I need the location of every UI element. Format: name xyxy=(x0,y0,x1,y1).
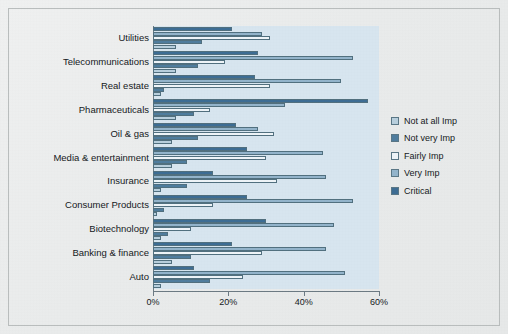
bar-pharmaceuticals-very-imp xyxy=(153,103,285,107)
category-label-auto: Auto xyxy=(9,271,149,282)
bar-auto-very-imp xyxy=(153,271,345,275)
legend-item-not-at-all-imp[interactable]: Not at all Imp xyxy=(391,112,497,130)
bar-oil-gas-fairly-imp xyxy=(153,132,274,136)
bar-banking-finance-fairly-imp xyxy=(153,251,262,255)
bar-media-entertainment-fairly-imp xyxy=(153,156,266,160)
bar-media-entertainment-not-at-all-imp xyxy=(153,164,172,168)
legend-label: Very Imp xyxy=(404,168,440,178)
bar-insurance-fairly-imp xyxy=(153,179,277,183)
legend-swatch-icon xyxy=(391,169,399,177)
bar-real-estate-fairly-imp xyxy=(153,84,270,88)
legend-swatch-icon xyxy=(391,187,399,195)
bar-auto-critical xyxy=(153,266,194,270)
bar-biotechnology-very-imp xyxy=(153,223,334,227)
bar-biotechnology-fairly-imp xyxy=(153,227,191,231)
bar-auto-not-very-imp xyxy=(153,279,210,283)
bar-auto-fairly-imp xyxy=(153,275,243,279)
x-tick-20 xyxy=(228,292,229,296)
x-tick-60 xyxy=(379,292,380,296)
bar-telecommunications-fairly-imp xyxy=(153,60,225,64)
bar-chart: 0%20%40%60% UtilitiesTelecommunicationsR… xyxy=(9,9,499,325)
bar-consumer-products-fairly-imp xyxy=(153,203,213,207)
bar-real-estate-very-imp xyxy=(153,79,341,83)
bar-real-estate-not-at-all-imp xyxy=(153,92,161,96)
bar-oil-gas-critical xyxy=(153,123,236,127)
bar-media-entertainment-not-very-imp xyxy=(153,160,187,164)
x-tick-label: 60% xyxy=(359,297,399,307)
bar-real-estate-critical xyxy=(153,75,255,79)
legend-swatch-icon xyxy=(391,152,399,160)
legend-item-very-imp[interactable]: Very Imp xyxy=(391,165,497,183)
legend-label: Critical xyxy=(404,186,432,196)
bar-banking-finance-not-very-imp xyxy=(153,255,191,259)
category-label-consumer-products: Consumer Products xyxy=(9,199,149,210)
legend-label: Not very Imp xyxy=(404,133,455,143)
legend-item-fairly-imp[interactable]: Fairly Imp xyxy=(391,147,497,165)
x-axis-line xyxy=(153,291,380,292)
bar-telecommunications-critical xyxy=(153,51,258,55)
bar-consumer-products-not-at-all-imp xyxy=(153,212,157,216)
category-label-biotechnology: Biotechnology xyxy=(9,223,149,234)
bar-insurance-not-at-all-imp xyxy=(153,188,161,192)
category-label-media-entertainment: Media & entertainment xyxy=(9,152,149,163)
bar-insurance-very-imp xyxy=(153,175,326,179)
bar-consumer-products-critical xyxy=(153,195,247,199)
category-label-oil-gas: Oil & gas xyxy=(9,128,149,139)
x-tick-label: 40% xyxy=(284,297,324,307)
bar-pharmaceuticals-not-very-imp xyxy=(153,112,194,116)
bar-real-estate-not-very-imp xyxy=(153,88,164,92)
bar-consumer-products-very-imp xyxy=(153,199,353,203)
bar-oil-gas-not-at-all-imp xyxy=(153,140,172,144)
bar-utilities-very-imp xyxy=(153,32,262,36)
category-label-real-estate: Real estate xyxy=(9,80,149,91)
bar-auto-not-at-all-imp xyxy=(153,284,161,288)
bar-banking-finance-very-imp xyxy=(153,247,326,251)
x-tick-label: 0% xyxy=(133,297,173,307)
bar-consumer-products-not-very-imp xyxy=(153,208,164,212)
bar-utilities-fairly-imp xyxy=(153,36,270,40)
bar-telecommunications-not-very-imp xyxy=(153,64,198,68)
x-tick-40 xyxy=(304,292,305,296)
chart-legend: Not at all ImpNot very ImpFairly ImpVery… xyxy=(391,112,497,200)
bar-banking-finance-critical xyxy=(153,242,232,246)
legend-label: Fairly Imp xyxy=(404,151,444,161)
bar-biotechnology-critical xyxy=(153,219,266,223)
bar-oil-gas-very-imp xyxy=(153,127,258,131)
legend-label: Not at all Imp xyxy=(404,116,457,126)
legend-item-critical[interactable]: Critical xyxy=(391,182,497,200)
bar-utilities-not-at-all-imp xyxy=(153,45,176,49)
bar-biotechnology-not-very-imp xyxy=(153,232,168,236)
bar-oil-gas-not-very-imp xyxy=(153,136,198,140)
y-axis-category-labels: UtilitiesTelecommunicationsReal estatePh… xyxy=(9,26,149,289)
bar-insurance-not-very-imp xyxy=(153,184,187,188)
bar-pharmaceuticals-not-at-all-imp xyxy=(153,116,176,120)
legend-item-not-very-imp[interactable]: Not very Imp xyxy=(391,130,497,148)
bar-utilities-not-very-imp xyxy=(153,40,202,44)
bar-telecommunications-very-imp xyxy=(153,56,353,60)
bar-media-entertainment-very-imp xyxy=(153,151,323,155)
bar-pharmaceuticals-critical xyxy=(153,99,368,103)
category-label-pharmaceuticals: Pharmaceuticals xyxy=(9,104,149,115)
bar-insurance-critical xyxy=(153,171,213,175)
bar-media-entertainment-critical xyxy=(153,147,247,151)
bar-biotechnology-not-at-all-imp xyxy=(153,236,161,240)
legend-swatch-icon xyxy=(391,134,399,142)
category-label-utilities: Utilities xyxy=(9,32,149,43)
bar-pharmaceuticals-fairly-imp xyxy=(153,108,210,112)
bar-utilities-critical xyxy=(153,27,232,31)
x-tick-label: 20% xyxy=(208,297,248,307)
x-tick-0 xyxy=(153,292,154,296)
category-label-insurance: Insurance xyxy=(9,175,149,186)
category-label-banking-finance: Banking & finance xyxy=(9,247,149,258)
bar-telecommunications-not-at-all-imp xyxy=(153,69,176,73)
legend-swatch-icon xyxy=(391,117,399,125)
category-label-telecommunications: Telecommunications xyxy=(9,56,149,67)
bar-banking-finance-not-at-all-imp xyxy=(153,260,172,264)
